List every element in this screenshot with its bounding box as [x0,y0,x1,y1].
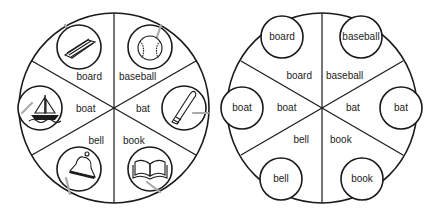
picture-circle-book [128,147,172,192]
right-label-bell: bell [293,134,309,145]
right-label-baseball: baseball [326,70,363,81]
word-circle-bat: bat [380,87,422,129]
word-circle-board: board [261,16,303,58]
right-label-boat: boat [277,102,297,113]
left-wheel: board baseball bat book bell boat [18,13,209,203]
svg-text:board: board [269,31,295,42]
picture-circle-board [57,25,101,69]
diagram-canvas: board baseball bat book bell boat [0,0,445,214]
svg-text:baseball: baseball [342,31,379,42]
word-circle-bell: bell [260,158,302,200]
svg-text:bat: bat [394,102,408,113]
left-label-boat: boat [76,103,96,114]
picture-circle-boat [18,86,62,130]
left-label-book: book [123,135,146,146]
right-label-book: book [330,134,353,145]
svg-text:bell: bell [273,173,289,184]
svg-text:boat: boat [232,102,252,113]
left-label-bell: bell [88,135,104,146]
right-label-bat: bat [346,102,360,113]
left-label-bat: bat [136,103,150,114]
svg-text:book: book [351,173,374,184]
left-label-board: board [76,71,102,82]
word-circle-book: book [341,158,383,200]
picture-circle-baseball [128,25,172,69]
word-circle-boat: boat [221,87,263,129]
word-circle-baseball: baseball [340,16,382,58]
right-label-board: board [286,70,312,81]
right-wheel: board baseball bat book bell boat board … [221,13,422,203]
left-label-baseball: baseball [119,71,156,82]
